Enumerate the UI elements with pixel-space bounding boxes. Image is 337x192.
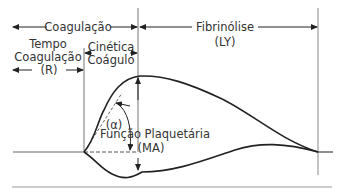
platelet-function-label: Função Plaquetária	[100, 127, 210, 141]
platelet-function-abbr: (MA)	[138, 141, 165, 155]
clotting-time-abbr: (R)	[41, 63, 58, 77]
clot-kinetics-label-2: Coágulo	[88, 53, 135, 67]
fibrinolysis-abbr: (LY)	[215, 35, 236, 49]
teg-diagram: Coagulação Fibrinólise (LY) Tempo Coagul…	[0, 0, 337, 192]
clot-kinetics-label-1: Cinética	[88, 40, 135, 54]
clotting-time-label-2: Coagulação	[14, 50, 81, 64]
clotting-time-label-1: Tempo	[28, 37, 67, 51]
coagulation-label: Coagulação	[44, 20, 111, 34]
lower-trace	[84, 145, 318, 178]
fibrinolysis-label: Fibrinólise	[196, 20, 254, 34]
